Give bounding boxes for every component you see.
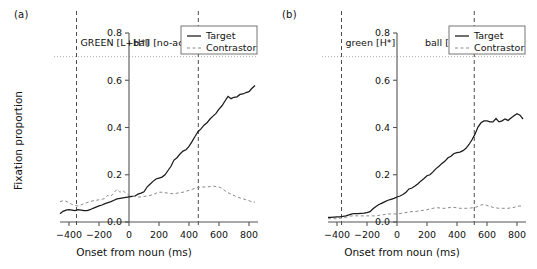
y-tick-label-3: 0.6 [107, 75, 122, 86]
legend-label-contrastor: Contrastor [474, 42, 524, 53]
x-tick-label-4: 400 [448, 229, 466, 240]
panel-a-ylabel: Fixation proportion [12, 91, 24, 190]
x-tick-label-0: −400 [324, 229, 350, 240]
x-tick-label-1: −200 [86, 229, 112, 240]
series-line-contrastor [328, 205, 523, 219]
x-tick-label-3: 200 [150, 229, 168, 240]
y-tick-label-1: 0.2 [107, 169, 122, 180]
y-tick-label-0: 0.0 [375, 216, 390, 227]
x-tick-label-2: 0 [394, 229, 400, 240]
panel-b: (b) 0.00.20.40.60.8−400−2000200400600800… [268, 0, 536, 269]
y-tick-label-2: 0.4 [107, 122, 122, 133]
x-tick-label-3: 200 [418, 229, 436, 240]
legend-label-target: Target [205, 30, 236, 41]
y-tick-label-3: 0.6 [375, 75, 390, 86]
x-tick-label-4: 400 [180, 229, 198, 240]
panel-a-xlabel: Onset from noun (ms) [0, 246, 268, 258]
panel-a-plot: 0.00.20.40.60.8−400−2000200400600800GREE… [0, 0, 268, 269]
y-tick-label-1: 0.2 [375, 169, 390, 180]
legend-label-target: Target [473, 30, 504, 41]
x-tick-label-5: 600 [478, 229, 496, 240]
legend-label-contrastor: Contrastor [206, 42, 256, 53]
x-tick-label-1: −200 [354, 229, 380, 240]
panel-b-plot: 0.00.20.40.60.8−400−2000200400600800gree… [268, 0, 536, 269]
x-tick-label-6: 800 [240, 229, 258, 240]
y-tick-label-2: 0.4 [375, 122, 390, 133]
x-tick-label-6: 800 [508, 229, 526, 240]
x-tick-label-5: 600 [210, 229, 228, 240]
series-line-target [60, 85, 255, 213]
annotation-label-0: green [H*] [346, 37, 396, 48]
series-line-target [328, 114, 523, 217]
figure-container: (a) 0.00.20.40.60.8−400−2000200400600800… [0, 0, 537, 269]
panel-b-xlabel: Onset from noun (ms) [268, 246, 536, 258]
y-tick-label-0: 0.0 [107, 216, 122, 227]
x-tick-label-2: 0 [126, 229, 132, 240]
panel-a: (a) 0.00.20.40.60.8−400−2000200400600800… [0, 0, 268, 269]
series-line-contrastor [60, 186, 255, 206]
x-tick-label-0: −400 [56, 229, 82, 240]
